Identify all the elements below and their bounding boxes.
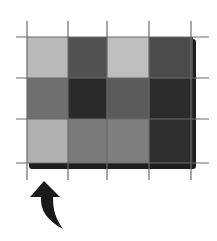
grid-cell: [68, 37, 107, 78]
grid-cell: [68, 78, 107, 119]
grid-cell: [27, 78, 68, 119]
grid-cell: [107, 119, 149, 163]
grid-cell: [149, 119, 193, 163]
grid-cell: [68, 119, 107, 163]
grid-figure: [0, 0, 217, 241]
grid-cell: [107, 37, 149, 78]
grid-cell: [27, 119, 68, 163]
grid-cells: [27, 37, 196, 169]
grid-cell: [27, 37, 68, 78]
grid-cell: [149, 37, 193, 78]
grid-cell: [149, 78, 193, 119]
curved-up-arrow-icon: [30, 181, 63, 229]
grid-cell: [107, 78, 149, 119]
